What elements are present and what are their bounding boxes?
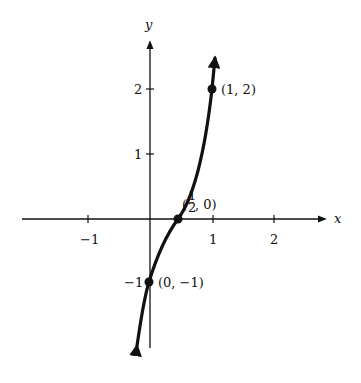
- y-axis-label: y: [144, 17, 153, 32]
- point-label-half: ( 1 2 , 0): [182, 188, 217, 215]
- point-label: (0, −1): [158, 275, 204, 290]
- x-tick-label: 1: [209, 232, 217, 247]
- y-tick-label: −1: [124, 275, 143, 290]
- x-axis-label: x: [334, 211, 342, 226]
- graph: −1 1 2 2 1 −1 x y (0, −1) (1, 2) ( 1 2 ,…: [0, 0, 361, 383]
- y-tick-label: 1: [134, 147, 142, 162]
- x-tick-label: 2: [270, 232, 278, 247]
- x-tick-label: −1: [80, 232, 99, 247]
- y-tick-label: 2: [134, 82, 142, 97]
- point-0-neg1: [145, 278, 154, 287]
- point-1-2: [208, 85, 217, 94]
- svg-text:, 0): , 0): [195, 197, 217, 212]
- point-half-0: [174, 215, 183, 224]
- point-label: (1, 2): [221, 82, 256, 97]
- svg-text:(: (: [182, 197, 187, 212]
